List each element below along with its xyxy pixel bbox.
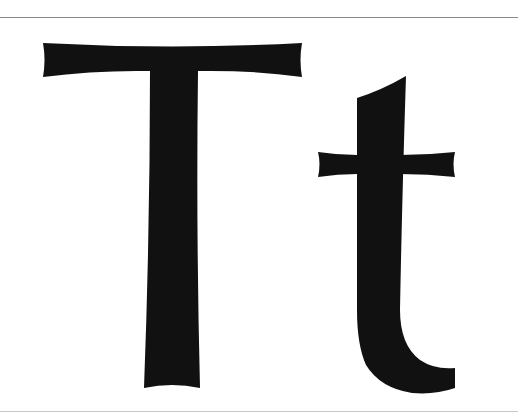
uppercase-t-glyph xyxy=(43,43,302,388)
bottom-rule xyxy=(0,411,518,412)
lowercase-t-glyph xyxy=(318,76,455,393)
letter-specimen xyxy=(0,0,518,418)
